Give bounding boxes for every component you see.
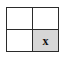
grid-cell-top-right[interactable] xyxy=(33,8,58,29)
canvas: x xyxy=(0,0,68,59)
grid-cell-bottom-left[interactable] xyxy=(7,30,32,51)
grid-cell-bottom-right[interactable]: x xyxy=(33,30,58,51)
grid-cell-top-left[interactable] xyxy=(7,8,32,29)
two-by-two-grid: x xyxy=(6,7,59,52)
grid-cell-mark-x: x xyxy=(43,35,49,47)
